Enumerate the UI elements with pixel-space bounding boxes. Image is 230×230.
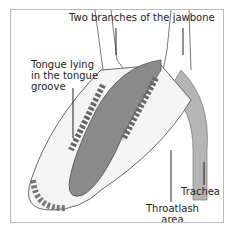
diagram-frame: Two branches of the jawbone Tongue lying… bbox=[10, 9, 224, 223]
label-trachea: Trachea bbox=[181, 186, 220, 197]
label-throatlash: Throatlash area bbox=[146, 203, 199, 223]
label-tongue: Tongue lying in the tongue groove bbox=[31, 59, 98, 92]
label-jawbone: Two branches of the jawbone bbox=[69, 12, 215, 23]
